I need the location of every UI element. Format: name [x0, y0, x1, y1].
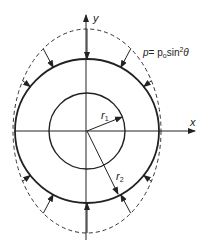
- r2-arrow: [87, 131, 118, 194]
- y-axis-label: y: [92, 12, 100, 24]
- r2-label: r2: [116, 170, 124, 183]
- load-arrow: [144, 175, 152, 181]
- load-arrow: [121, 195, 131, 214]
- load-arrow: [43, 49, 53, 68]
- thick-cylinder-diagram: y x p= posin2θ r1 r2: [0, 0, 206, 240]
- load-arrow: [43, 195, 53, 214]
- load-arrow: [121, 49, 131, 68]
- load-arrow: [144, 81, 152, 87]
- load-arrow: [23, 81, 31, 87]
- x-axis-label: x: [189, 116, 196, 128]
- load-arrow: [23, 175, 31, 181]
- r1-label: r1: [101, 109, 109, 122]
- load-equation-label: p= posin2θ: [142, 46, 189, 59]
